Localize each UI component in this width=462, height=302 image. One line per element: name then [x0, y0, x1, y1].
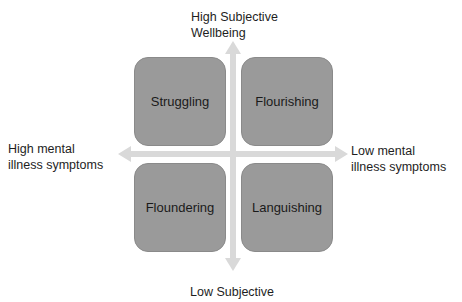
quadrant-label: Languishing	[252, 200, 322, 215]
quadrant-label: Struggling	[151, 94, 210, 109]
quadrant-label: Floundering	[146, 200, 215, 215]
quadrant-floundering: Floundering	[134, 163, 226, 252]
quadrant-struggling: Struggling	[134, 57, 226, 146]
quadrant-languishing: Languishing	[241, 163, 333, 252]
quadrant-flourishing: Flourishing	[241, 57, 333, 146]
right-axis-label: Low mental illness symptoms	[351, 143, 446, 175]
top-axis-label: High Subjective Wellbeing	[191, 9, 278, 41]
left-axis-label: High mental illness symptoms	[8, 141, 103, 173]
bottom-axis-label: Low Subjective	[190, 284, 274, 300]
quadrant-label: Flourishing	[255, 94, 319, 109]
